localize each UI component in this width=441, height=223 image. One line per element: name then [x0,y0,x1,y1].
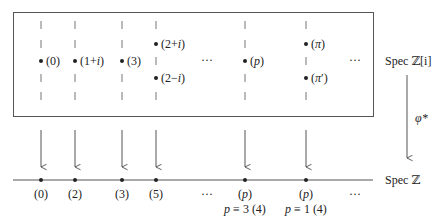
congruence-note: p ≡ 1 (4) [284,202,327,216]
prime-point [304,178,308,182]
congruence-note: p ≡ 3 (4) [223,202,266,216]
spec-z-label: Spec ℤ [385,173,420,187]
prime-label: (p) [238,187,252,201]
ellipsis: ··· [349,53,361,67]
prime-label: (2+i) [161,37,185,51]
prime-point [243,178,247,182]
prime-label: (p) [299,187,313,201]
prime-point [73,178,77,182]
prime-point [39,59,43,63]
phi-star-label: φ* [415,111,428,125]
spec-map-diagram: (0)(1+i)(3)(2+i)(2−i)(p)(π)(π′)······ Sp… [0,0,441,223]
prime-point [304,42,308,46]
prime-label: (0) [46,54,60,68]
prime-label: (3) [127,54,141,68]
prime-point [73,59,77,63]
prime-point [243,59,247,63]
prime-point [304,76,308,80]
prime-point [154,178,158,182]
prime-label: (p) [250,54,264,68]
spec-z-i-box [14,13,374,117]
ellipsis: ··· [201,53,213,67]
prime-label: (2−i) [161,71,185,85]
ellipsis: ··· [201,187,213,201]
prime-label: (1+i) [80,54,104,68]
prime-point [39,178,43,182]
prime-label: (π′) [311,71,328,85]
prime-label: (3) [115,187,129,201]
prime-point [154,76,158,80]
ellipsis: ··· [349,187,361,201]
prime-point [120,178,124,182]
spec-z-i-points: (0)(1+i)(3)(2+i)(2−i)(p)(π)(π′)······ [39,21,361,100]
prime-point [120,59,124,63]
prime-point [154,42,158,46]
spec-z-i-label: Spec ℤ[i] [385,54,431,68]
prime-label: (2) [68,187,82,201]
prime-label: (π) [311,37,325,51]
spec-z-points: (0)(2)(3)(5)(p)p ≡ 3 (4)(p)p ≡ 1 (4)····… [34,178,361,216]
prime-label: (0) [34,187,48,201]
prime-label: (5) [149,187,163,201]
projection-arrows [41,130,306,167]
